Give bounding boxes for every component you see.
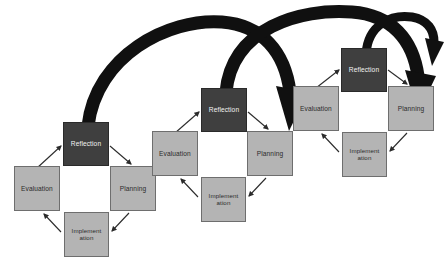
cycle-1-node-implementation[interactable]: Implement ation	[64, 212, 109, 257]
cycle-3-node-evaluation[interactable]: Evaluation	[293, 86, 339, 131]
cycle-2-node-implementation[interactable]: Implement ation	[201, 177, 246, 222]
arrow-planning-to-implementation	[390, 133, 407, 151]
cycle-1-reflection-label: Reflection	[70, 140, 102, 147]
arrow-planning-to-implementation	[249, 178, 266, 196]
arrow-reflection-to-planning	[388, 70, 407, 84]
cycle-2-evaluation-label: Evaluation	[158, 150, 192, 157]
cycle-2-implementation-label: Implement ation	[202, 193, 245, 206]
arrow-implementation-to-evaluation	[322, 134, 339, 152]
cycle-1-node-evaluation[interactable]: Evaluation	[14, 166, 60, 211]
cycle-3-evaluation-label: Evaluation	[299, 105, 333, 112]
arrow-planning-to-implementation	[112, 213, 129, 231]
cycle-2-node-evaluation[interactable]: Evaluation	[152, 131, 198, 176]
cycle-2-node-planning[interactable]: Planning	[247, 131, 293, 176]
cycle-3-implementation-label: Implement ation	[343, 148, 386, 161]
arrow-evaluation-to-reflection	[37, 146, 61, 168]
cycle-3-node-reflection[interactable]: Reflection	[341, 48, 387, 92]
arrow-implementation-to-evaluation	[181, 179, 198, 197]
cycle-2-planning-label: Planning	[256, 150, 284, 157]
cycle-3-node-planning[interactable]: Planning	[388, 86, 434, 131]
cycle-2-node-reflection[interactable]: Reflection	[201, 88, 247, 132]
cycle-2-reflection-label: Reflection	[208, 106, 240, 113]
spiral-arc-cycle1-to-cycle2	[88, 22, 308, 131]
arrow-evaluation-to-reflection	[175, 112, 199, 133]
cycle-1-evaluation-label: Evaluation	[20, 185, 54, 192]
cycle-1-node-planning[interactable]: Planning	[110, 166, 156, 211]
cycle-3-planning-label: Planning	[397, 105, 425, 112]
arrow-implementation-to-evaluation	[44, 214, 61, 232]
arrow-reflection-to-planning	[110, 146, 131, 164]
cycle-1-node-reflection[interactable]: Reflection	[63, 122, 109, 166]
cycle-1-planning-label: Planning	[119, 185, 147, 192]
arrow-reflection-to-planning	[248, 112, 268, 129]
cycle-1-implementation-label: Implement ation	[65, 228, 108, 241]
cycle-3-reflection-label: Reflection	[348, 66, 380, 73]
action-research-spiral-diagram: Reflection Evaluation Planning Implement…	[0, 0, 445, 269]
cycle-3-node-implementation[interactable]: Implement ation	[342, 132, 387, 177]
